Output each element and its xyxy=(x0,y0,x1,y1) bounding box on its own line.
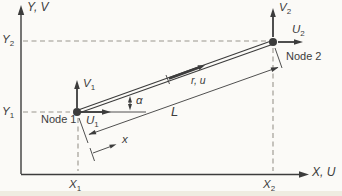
x-axis-label: X, U xyxy=(312,166,335,179)
local-force-label: r, u xyxy=(191,75,206,86)
local-x-axis-label: x xyxy=(122,133,128,145)
length-label: L xyxy=(171,105,178,119)
y2-tick-label: Y2 xyxy=(2,33,14,48)
node2-dot xyxy=(269,38,277,46)
node2-label: Node 2 xyxy=(286,51,321,63)
diagram-canvas xyxy=(0,0,342,196)
node1-label: Node 1 xyxy=(41,114,76,126)
x1-tick-label: X1 xyxy=(69,178,81,193)
x2-tick-label: X2 xyxy=(263,178,275,193)
u2-label: U2 xyxy=(292,23,305,38)
diagram-background xyxy=(0,0,342,196)
y-axis-label: Y, V xyxy=(27,1,49,14)
bar-element-diagram: Y, V X, U Y2 Y1 X1 X2 V1 U1 V2 U2 Node 1… xyxy=(0,0,342,196)
y1-tick-label: Y1 xyxy=(2,105,14,120)
angle-label: α xyxy=(136,94,143,106)
u1-label: U1 xyxy=(86,114,99,129)
v2-label: V2 xyxy=(279,1,291,16)
v1-label: V1 xyxy=(83,77,95,92)
page-edge-band xyxy=(0,191,342,196)
